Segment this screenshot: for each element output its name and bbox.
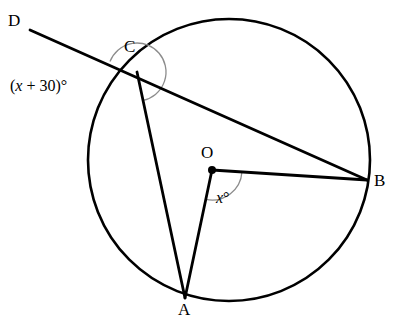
degree-symbol: ° [61, 77, 67, 94]
angle-label-at-c: (x + 30)° [10, 78, 67, 94]
radius-line-o-a [185, 170, 212, 298]
circle-outline [88, 19, 370, 301]
point-label-d: D [8, 12, 20, 29]
point-label-o: O [201, 144, 213, 161]
point-label-a: A [178, 301, 190, 318]
geometry-figure: D C O B A (x + 30)° x° [0, 0, 397, 325]
secant-line-d-c-b [30, 30, 367, 180]
angle-label-at-o: x° [216, 190, 230, 206]
geometry-canvas [0, 0, 397, 325]
chord-line-c-a [137, 72, 185, 298]
center-point-dot [208, 166, 216, 174]
radius-line-o-b [212, 170, 367, 180]
degree-symbol: ° [223, 189, 229, 206]
point-label-b: B [374, 172, 385, 189]
point-label-c: C [124, 38, 135, 55]
constant-30: 30 [39, 77, 55, 94]
plus-operator: + [22, 77, 39, 94]
